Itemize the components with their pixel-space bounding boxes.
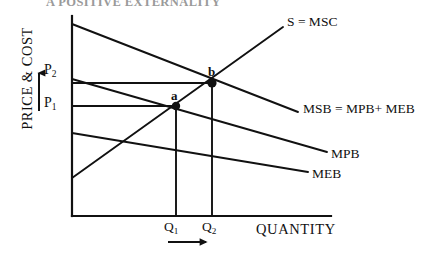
curve-lines — [72, 24, 327, 178]
y-axis-label: PRICE & COST — [19, 18, 36, 140]
curve-label-meb: MEB — [312, 166, 341, 182]
p2-base: P — [44, 62, 52, 77]
quantity-label-q1: Q1 — [164, 219, 178, 236]
price-label-p2: P2 — [44, 62, 57, 79]
price-guide-lines — [72, 83, 212, 106]
diagram-title: A POSITIVE EXTERNALITY — [46, 0, 221, 10]
mpb-curve — [72, 79, 327, 152]
curve-label-msb: MSB = MPB+ MEB — [303, 101, 415, 117]
point-label-a: a — [171, 88, 178, 104]
p1-base: P — [44, 95, 52, 110]
point-label-b: b — [208, 64, 215, 80]
q2-base: Q — [202, 219, 212, 234]
curve-label-mpb: MPB — [331, 146, 360, 162]
q1-subscript: 1 — [174, 226, 179, 236]
quantity-label-q2: Q2 — [202, 219, 216, 236]
price-label-p1: P1 — [44, 95, 57, 112]
positive-externality-diagram: A POSITIVE EXTERNALITY PRICE & COST QUAN… — [0, 0, 440, 258]
quantity-drop-lines — [176, 83, 212, 216]
p1-subscript: 1 — [52, 102, 57, 112]
q1-base: Q — [164, 219, 174, 234]
p2-subscript: 2 — [52, 69, 57, 79]
q2-subscript: 2 — [212, 226, 217, 236]
x-axis-label: QUANTITY — [256, 221, 336, 238]
msb-curve — [72, 24, 298, 112]
curve-label-supply-msc: S = MSC — [287, 14, 337, 30]
diagram-canvas — [0, 0, 440, 258]
